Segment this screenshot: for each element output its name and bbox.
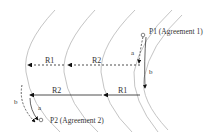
label-r1-top: R1 bbox=[45, 56, 54, 65]
label-p1: P1 (Agreement 1) bbox=[149, 27, 203, 36]
path-p1-b bbox=[145, 37, 146, 88]
diagram-svg: R1 R2 R2 R1 P1 (Agreement 1) a b P2 (Agr… bbox=[0, 0, 215, 139]
path-p2-a bbox=[30, 98, 38, 120]
arc-3 bbox=[101, 10, 135, 132]
point-p1-icon bbox=[141, 33, 145, 37]
label-p2: P2 (Agreement 2) bbox=[50, 116, 104, 125]
diagram-canvas: R1 R2 R2 R1 P1 (Agreement 1) a b P2 (Agr… bbox=[0, 0, 215, 139]
label-p1-b: b bbox=[149, 68, 153, 76]
label-r1-bottom: R1 bbox=[118, 86, 127, 95]
arc-2 bbox=[64, 10, 98, 132]
point-p2-icon bbox=[39, 118, 43, 122]
label-p2-b: b bbox=[14, 98, 18, 106]
arc-1 bbox=[26, 10, 60, 132]
label-r2-bottom: R2 bbox=[52, 86, 61, 95]
label-p1-a: a bbox=[131, 49, 135, 57]
path-p2-b bbox=[21, 85, 35, 122]
label-r2-top: R2 bbox=[92, 56, 101, 65]
